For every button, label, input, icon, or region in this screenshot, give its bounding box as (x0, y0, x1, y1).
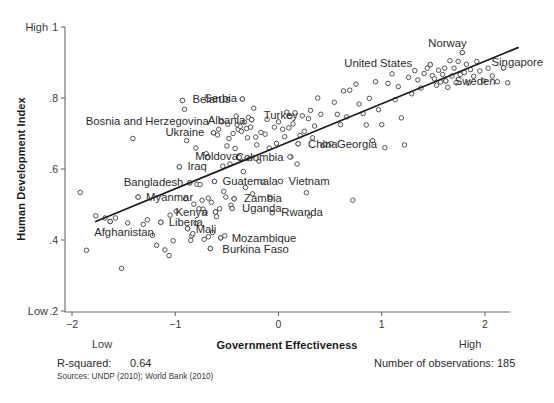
data-point (295, 162, 300, 167)
point-label: United States (344, 57, 412, 69)
data-point (399, 116, 404, 121)
y-tick-label: 1 (52, 21, 58, 33)
point-label: Albania (208, 114, 246, 126)
data-point (222, 189, 227, 194)
data-point (428, 62, 433, 67)
point-label: Turkey (264, 109, 298, 121)
data-point (296, 142, 301, 147)
data-point (274, 141, 279, 146)
data-point (184, 138, 189, 143)
x-tick-label: −2 (66, 318, 78, 330)
data-point (373, 79, 378, 84)
x-axis-title: Government Effectiveness (216, 339, 357, 351)
point-label: Rwanda (281, 206, 323, 218)
sources-note: Sources: UNDP (2010); World Bank (2010) (57, 372, 213, 381)
data-point (452, 66, 457, 71)
data-point (177, 165, 182, 170)
data-point (145, 218, 150, 223)
point-label: Afghanistan (94, 226, 154, 238)
point-label: Sweden (455, 75, 496, 87)
point-label: Myanmar (146, 191, 193, 203)
data-point (206, 196, 211, 201)
data-point (376, 107, 381, 112)
data-point (182, 107, 187, 112)
point-label: Guatemala (222, 175, 278, 187)
data-point (456, 59, 461, 64)
data-point (282, 134, 287, 139)
point-label: Georgia (337, 138, 378, 150)
data-point (448, 58, 453, 63)
y-tick-label: .2 (49, 305, 58, 317)
data-point (240, 97, 245, 102)
data-point (288, 155, 293, 160)
point-labels: BelarusSerbiaBosnia and HerzegovinaAlban… (86, 37, 543, 255)
data-point (251, 106, 256, 111)
data-point (167, 253, 172, 258)
data-point (357, 102, 362, 107)
data-point (302, 129, 307, 134)
data-point (380, 122, 385, 127)
data-point (263, 132, 268, 137)
point-label: Norway (428, 37, 467, 49)
data-point (354, 82, 359, 87)
data-point (464, 62, 469, 67)
data-point (245, 136, 250, 141)
point-label: Bangladesh (124, 176, 184, 188)
data-point (364, 123, 369, 128)
point-label: Colombia (236, 151, 284, 163)
chart-canvas: 1.8.6.4.2−2−1012HighLowLowHighHuman Deve… (0, 0, 554, 403)
data-point (218, 236, 223, 241)
data-point (347, 88, 352, 93)
y-axis-ticks: 1.8.6.4.2 (49, 21, 65, 317)
data-point (231, 131, 236, 136)
data-point (304, 191, 309, 196)
data-point (367, 96, 372, 101)
point-label: Iraq (187, 160, 206, 172)
data-point (280, 127, 285, 132)
data-point (119, 266, 124, 271)
data-point (213, 210, 218, 215)
data-point (84, 248, 89, 253)
data-point (212, 179, 217, 184)
data-point (230, 206, 235, 211)
data-point (108, 219, 113, 224)
data-point (474, 59, 479, 64)
data-point (341, 89, 346, 94)
point-label: Ukraine (165, 126, 204, 138)
y-tick-label: .8 (49, 92, 58, 104)
data-point (436, 68, 441, 73)
data-point (312, 124, 317, 129)
data-point (239, 129, 244, 134)
data-point (180, 98, 185, 103)
data-point (254, 135, 259, 140)
point-label: Mali (196, 223, 217, 235)
data-point (351, 198, 356, 203)
data-point (227, 136, 232, 141)
y-axis-low-label: Low (28, 305, 48, 317)
data-point (486, 66, 491, 71)
data-point (214, 214, 219, 219)
data-point (306, 116, 311, 121)
point-label: Burkina Faso (222, 243, 289, 255)
data-point (241, 169, 246, 174)
data-point (505, 80, 510, 85)
r-squared-value: 0.64 (130, 357, 151, 369)
point-label: Singapore (492, 56, 544, 68)
data-point (338, 122, 343, 127)
data-point (206, 235, 211, 240)
data-point (208, 246, 213, 251)
data-point (402, 143, 407, 148)
data-point (383, 145, 388, 150)
data-point (248, 125, 253, 130)
data-point (154, 243, 159, 248)
x-tick-label: −1 (169, 318, 181, 330)
data-point (126, 221, 131, 226)
data-point (291, 122, 296, 127)
data-point (287, 126, 292, 131)
data-point (136, 195, 141, 200)
data-point (444, 79, 449, 84)
data-point (188, 238, 193, 243)
data-point (78, 190, 83, 195)
data-point (432, 77, 437, 82)
data-point (211, 131, 216, 136)
